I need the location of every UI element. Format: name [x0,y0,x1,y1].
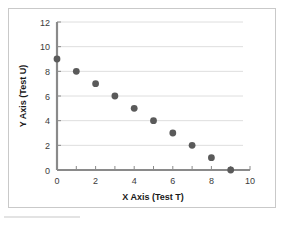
x-axis-title: X Axis (Test T) [122,192,184,202]
x-tick-label-0: 0 [54,176,59,186]
y-tick-label-2: 2 [45,141,50,151]
x-tick-label-4: 4 [132,176,137,186]
x-tick-label-6: 6 [170,176,175,186]
y-tick-label-6: 6 [45,92,50,102]
y-tick-label-4: 4 [45,116,50,126]
y-tick-label-12: 12 [40,18,50,28]
plot-canvas: 024681012 0246810 X Axis (Test T) Y Axis… [0,0,287,228]
y-tick-label-0: 0 [45,166,50,176]
data-point-0 [54,56,61,63]
x-tick-label-10: 10 [245,176,255,186]
y-tick-labels-group: 024681012 [40,18,50,176]
gridlines-group [57,22,243,145]
y-axis-title: Y Axis (Test U) [18,65,28,127]
data-points-group [54,56,235,174]
data-point-3 [112,93,119,100]
x-tick-labels-group: 0246810 [54,176,255,186]
data-point-6 [169,130,176,137]
y-tick-label-8: 8 [45,67,50,77]
x-tick-label-8: 8 [209,176,214,186]
x-tick-label-2: 2 [93,176,98,186]
data-point-7 [189,142,196,149]
scatter-plot-figure: 024681012 0246810 X Axis (Test T) Y Axis… [0,0,287,228]
data-point-8 [208,154,215,161]
y-tick-label-10: 10 [40,42,50,52]
data-point-2 [92,80,99,87]
data-point-5 [150,117,157,124]
data-point-4 [131,105,138,112]
data-point-1 [73,68,80,75]
data-point-9 [227,167,234,174]
